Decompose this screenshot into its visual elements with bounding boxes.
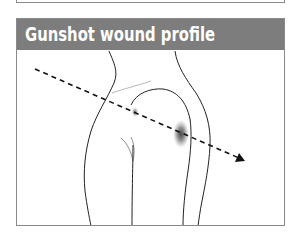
crease-line-a <box>121 138 133 161</box>
previous-figure-box <box>16 0 285 3</box>
body-outline-left <box>84 51 116 225</box>
figure-panel: Gunshot wound profile <box>16 18 285 226</box>
buttock-curve <box>131 89 191 225</box>
wound-illustration <box>17 50 284 225</box>
figure-title: Gunshot wound profile <box>25 22 215 46</box>
exit-wound <box>173 120 189 148</box>
figure-header: Gunshot wound profile <box>17 19 284 50</box>
hip-crease <box>112 81 151 93</box>
trajectory-line <box>35 69 239 158</box>
